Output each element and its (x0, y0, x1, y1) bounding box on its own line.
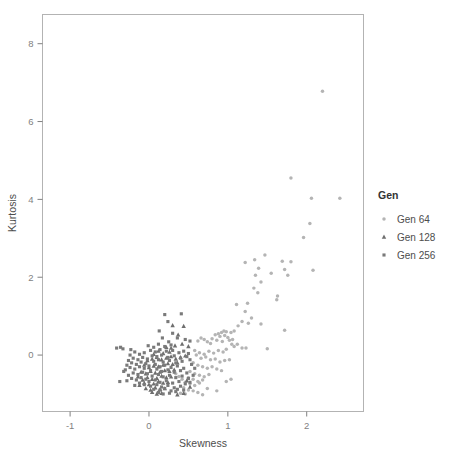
data-point (225, 380, 228, 383)
data-point (141, 356, 144, 359)
data-point (119, 346, 122, 349)
data-point (206, 367, 209, 370)
data-point (229, 331, 232, 334)
data-point (152, 388, 155, 391)
data-point (162, 375, 165, 378)
data-point (201, 393, 204, 396)
data-point (174, 361, 177, 364)
data-point (157, 343, 160, 346)
data-point (135, 363, 138, 366)
data-point (209, 342, 212, 345)
data-point (133, 350, 136, 353)
x-axis-tick-marks (70, 412, 307, 417)
data-point (338, 196, 341, 199)
data-point (138, 365, 141, 368)
data-point (217, 349, 220, 352)
data-point (174, 376, 177, 379)
data-point (218, 335, 221, 338)
data-point (182, 389, 185, 392)
data-point (143, 367, 146, 370)
data-point (228, 358, 231, 361)
data-point (167, 340, 170, 343)
plot-canvas: -1012 02468 Skewness Kurtosis Gen Gen 64… (0, 0, 449, 468)
data-point (198, 351, 201, 354)
data-point (182, 367, 185, 370)
y-axis-tick-labels: 02468 (28, 38, 33, 360)
data-point (171, 349, 174, 352)
data-point (207, 349, 210, 352)
data-point (188, 358, 191, 361)
data-point (184, 382, 187, 385)
data-point (138, 353, 141, 356)
data-point (149, 369, 152, 372)
data-point (177, 380, 180, 383)
data-point (220, 369, 223, 372)
data-point (149, 385, 152, 388)
data-point (152, 346, 155, 349)
data-point (283, 268, 286, 271)
data-point (204, 355, 207, 358)
data-point (158, 365, 161, 368)
data-point (173, 371, 176, 374)
data-point (165, 350, 168, 353)
data-point (158, 348, 161, 351)
data-point (187, 352, 190, 355)
data-point (243, 310, 246, 313)
legend-item-gen-256[interactable]: Gen 256 (376, 247, 436, 263)
data-point (246, 302, 249, 305)
data-point (191, 377, 194, 380)
data-point (171, 382, 174, 385)
data-point (235, 303, 238, 306)
legend-item-gen-128[interactable]: Gen 128 (376, 229, 436, 245)
data-point (302, 236, 305, 239)
x-axis-tick-labels: -1012 (66, 420, 309, 431)
data-point (133, 368, 136, 371)
data-point (128, 366, 131, 369)
data-point (240, 346, 243, 349)
legend-entries: Gen 64Gen 128Gen 256 (376, 211, 436, 263)
data-point (185, 371, 188, 374)
data-point (130, 361, 133, 364)
data-point (158, 381, 161, 384)
data-point (143, 351, 146, 354)
data-point (289, 260, 292, 263)
data-point (125, 364, 128, 367)
data-point (310, 196, 313, 199)
data-point (163, 313, 166, 316)
data-point (185, 355, 188, 358)
data-point (193, 367, 196, 370)
data-point (198, 374, 201, 377)
y-axis-tick-marks (38, 44, 43, 355)
data-point (212, 351, 215, 354)
data-point (147, 364, 150, 367)
data-point (166, 320, 169, 323)
data-point (201, 365, 204, 368)
data-point (122, 370, 125, 373)
data-point (177, 351, 180, 354)
data-point (168, 374, 171, 377)
y-tick-label: 6 (28, 116, 33, 127)
y-axis-title: Kurtosis (6, 194, 18, 232)
data-point (177, 375, 180, 378)
data-point (236, 342, 239, 345)
legend-item-gen-64[interactable]: Gen 64 (376, 211, 430, 227)
data-point (289, 176, 292, 179)
data-point (168, 359, 171, 362)
data-point (225, 347, 228, 350)
data-point (210, 365, 213, 368)
plot-panel (43, 15, 364, 412)
data-point (149, 349, 152, 352)
data-point (163, 345, 166, 348)
legend-marker-square-icon (382, 253, 385, 256)
data-point (118, 380, 121, 383)
x-axis-title: Skewness (179, 437, 227, 449)
data-point (166, 356, 169, 359)
data-point (157, 358, 160, 361)
data-point (190, 363, 193, 366)
data-point (136, 358, 139, 361)
data-point (176, 364, 179, 367)
data-point (202, 375, 205, 378)
data-point (228, 339, 231, 342)
data-point (173, 386, 176, 389)
data-point (179, 357, 182, 360)
